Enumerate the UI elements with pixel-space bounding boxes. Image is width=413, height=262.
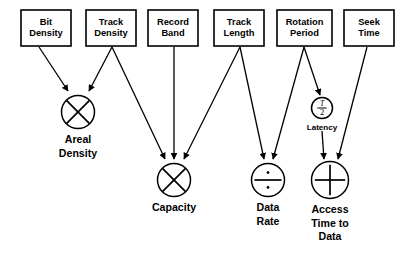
operator-node-label-line: Time to <box>311 217 349 229</box>
input-box-bit-density[interactable]: BitDensity <box>21 10 71 46</box>
edge-latency-to-access-time <box>322 131 324 159</box>
edge-arrow-line <box>112 47 165 159</box>
edge-rotation-period-to-latency <box>304 47 320 95</box>
edge-rotation-period-to-data-rate <box>273 47 304 159</box>
input-box-seek-time[interactable]: SeekTime <box>344 10 394 46</box>
edge-arrow-line <box>240 47 264 159</box>
operator-node-label-line: Access <box>311 203 348 215</box>
latency-node-layer: T2Latency <box>307 98 338 132</box>
operator-node-label-line: Density <box>59 147 97 159</box>
edge-arrow-line <box>184 47 240 159</box>
input-box-label-line: Density <box>29 28 63 38</box>
edge-track-length-to-capacity <box>184 47 240 159</box>
input-box-label-line: Time <box>358 28 380 38</box>
edge-seek-time-to-access-time <box>338 47 367 159</box>
edge-arrow-line <box>338 47 367 159</box>
edge-bit-density-to-areal-density <box>39 47 68 91</box>
input-box-label-line: Record <box>157 17 189 27</box>
input-box-label-line: Seek <box>358 17 381 27</box>
operator-node-label-line: Rate <box>257 215 280 227</box>
edge-arrow-line <box>273 47 304 159</box>
diagram-svg: BitDensityTrackDensityRecordBandTrackLen… <box>0 0 413 262</box>
operator-node-label-line: Capacity <box>152 201 196 213</box>
input-box-track-density[interactable]: TrackDensity <box>86 10 136 46</box>
operator-node-label-line: Data <box>319 230 342 242</box>
input-box-label-line: Rotation <box>286 17 324 27</box>
operator-node-access-time[interactable]: AccessTime toData <box>311 162 349 243</box>
operator-node-capacity[interactable]: Capacity <box>152 164 196 214</box>
edge-arrow-line <box>89 47 112 91</box>
latency-node[interactable]: T2Latency <box>307 98 338 132</box>
latency-fraction-denominator: 2 <box>320 108 324 117</box>
input-box-track-length[interactable]: TrackLength <box>214 10 264 46</box>
input-box-record-band[interactable]: RecordBand <box>148 10 198 46</box>
input-boxes-layer: BitDensityTrackDensityRecordBandTrackLen… <box>21 10 394 46</box>
input-box-label-line: Track <box>99 17 124 27</box>
input-box-rotation-period[interactable]: RotationPeriod <box>277 10 332 46</box>
edge-track-length-to-data-rate <box>240 47 264 159</box>
edge-arrow-line <box>39 47 68 91</box>
operator-node-data-rate[interactable]: DataRate <box>252 164 285 227</box>
operator-node-areal-density[interactable]: ArealDensity <box>59 96 97 159</box>
input-box-label-line: Bit <box>40 17 52 27</box>
operator-node-label-line: Areal <box>65 133 92 145</box>
edge-track-density-to-capacity <box>112 47 165 159</box>
input-box-label-line: Length <box>224 28 255 38</box>
edge-arrow-line <box>322 131 324 159</box>
input-box-label-line: Period <box>290 28 319 38</box>
input-box-label-line: Density <box>94 28 128 38</box>
diagram-canvas: BitDensityTrackDensityRecordBandTrackLen… <box>0 0 413 262</box>
operator-node-label-line: Data <box>257 201 280 213</box>
edge-track-density-to-areal-density <box>89 47 112 91</box>
input-box-label-line: Track <box>227 17 252 27</box>
latency-node-label: Latency <box>307 123 338 132</box>
input-box-label-line: Band <box>161 28 185 38</box>
edge-arrow-line <box>304 47 320 95</box>
